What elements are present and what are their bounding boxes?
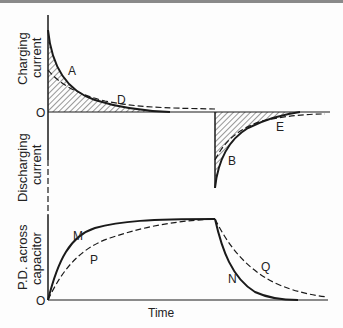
curve-label-Q: Q bbox=[261, 260, 270, 274]
curve-label-B: B bbox=[228, 154, 236, 168]
curve-label-M: M bbox=[73, 229, 83, 243]
origin-top-label: O bbox=[36, 106, 45, 120]
charging-label-line2: current bbox=[29, 37, 44, 78]
curve-label-A: A bbox=[68, 64, 76, 78]
discharging-label-line2: current bbox=[29, 144, 44, 185]
charge-area-A bbox=[48, 30, 170, 112]
curve-label-D: D bbox=[117, 93, 126, 107]
origin-bottom-label: O bbox=[36, 294, 45, 308]
discharging-label-line1: Discharging bbox=[15, 133, 30, 202]
curve-label-N: N bbox=[228, 272, 237, 286]
capacitor-charge-discharge-diagram: Charging current Discharging current P.D… bbox=[0, 0, 343, 328]
time-axis-label: Time bbox=[148, 306, 175, 320]
pd-label-line1: P.D. across bbox=[15, 224, 30, 290]
pd-label-line2: capacitor bbox=[29, 232, 44, 285]
curve-label-E: E bbox=[276, 120, 284, 134]
curve-label-P: P bbox=[90, 253, 98, 267]
diagram-canvas: Charging current Discharging current P.D… bbox=[0, 0, 343, 328]
charging-label-line1: Charging bbox=[15, 32, 30, 85]
